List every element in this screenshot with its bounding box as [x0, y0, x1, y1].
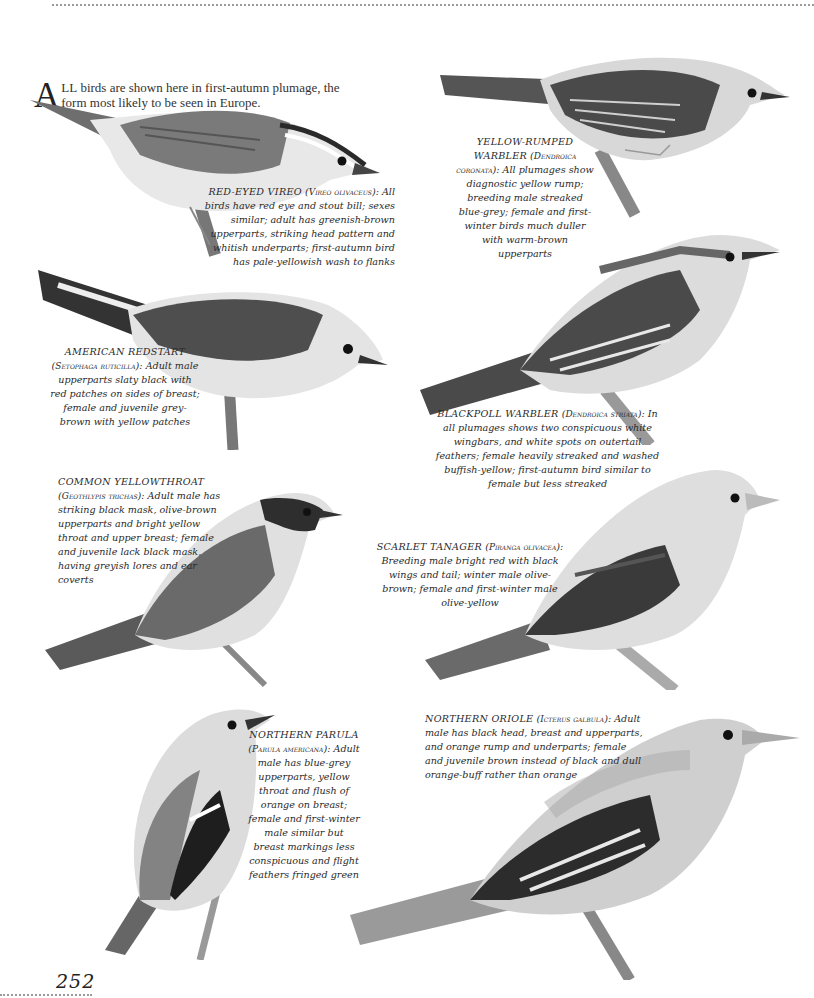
species-name: NORTHERN ORIOLE [425, 713, 533, 724]
caption-northern-parula: NORTHERN PARULA (Parula americana): Adul… [248, 728, 360, 882]
species-scientific-name: Vireo olivaceus [309, 187, 372, 197]
top-dotted-rule [52, 4, 814, 6]
species-scientific-name: Piranga olivacea [489, 542, 556, 552]
species-scientific-name: Icterus galbula [540, 714, 604, 724]
page-number: 252 [56, 970, 95, 992]
caption-yellow-rumped-warbler: YELLOW-RUMPED WARBLER (Dendroica coronat… [455, 135, 595, 261]
species-name: AMERICAN REDSTART [65, 346, 185, 357]
species-description: All birds have red eye and stout bill; s… [205, 186, 395, 267]
species-description: In all plumages shows two conspicuous wh… [436, 408, 659, 489]
species-scientific-name: Parula americana [252, 744, 323, 754]
species-scientific-name: Setophaga ruticilla [55, 361, 135, 371]
caption-american-redstart: AMERICAN REDSTART (Setophaga ruticilla):… [50, 345, 200, 429]
species-name: BLACKPOLL WARBLER [437, 408, 558, 419]
caption-common-yellowthroat: COMMON YELLOWTHROAT (Geothlypis trichas)… [58, 475, 228, 587]
caption-blackpoll-warbler: BLACKPOLL WARBLER (Dendroica striata): I… [435, 407, 660, 491]
caption-northern-oriole: NORTHERN ORIOLE (Icterus galbula): Adult… [425, 712, 645, 782]
intro-smallcaps: LL [61, 80, 77, 95]
species-description: Adult male has striking black mask, oliv… [58, 490, 220, 585]
species-scientific-name: Geothlypis trichas [62, 491, 138, 501]
species-name: NORTHERN PARULA [249, 729, 358, 740]
caption-red-eyed-vireo: RED-EYED VIREO (Vireo olivaceus): All bi… [200, 185, 395, 269]
species-scientific-name: Dendroica striata [565, 409, 637, 419]
species-name: COMMON YELLOWTHROAT [58, 476, 204, 487]
species-name: RED-EYED VIREO [208, 186, 301, 197]
species-description: Adult male has blue-grey upperparts, yel… [248, 743, 360, 880]
caption-scarlet-tanager: SCARLET TANAGER (Piranga olivacea): Bree… [375, 540, 565, 610]
species-description: Breeding male bright red with black wing… [381, 555, 558, 608]
bottom-dotted-rule [0, 994, 92, 996]
species-name: SCARLET TANAGER [377, 541, 482, 552]
species-description: All plumages show diagnostic yellow rump… [459, 164, 594, 259]
